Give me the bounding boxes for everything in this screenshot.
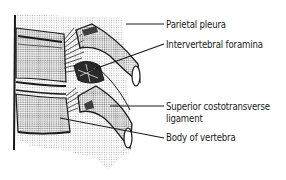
label-parietal-pleura: Parietal pleura	[166, 19, 226, 30]
anatomy-figure: Parietal pleura Intervertebral foramina …	[0, 0, 286, 180]
label-body-of-vertebra: Body of vertebra	[166, 132, 236, 143]
vertebra-illustration	[0, 0, 286, 180]
label-superior-costotransverse-line1: Superior costotransverse	[166, 101, 270, 112]
label-intervertebral-foramina: Intervertebral foramina	[166, 39, 263, 50]
lower-vertebral-body	[16, 94, 70, 134]
label-superior-costotransverse-line2: ligament	[166, 113, 203, 124]
